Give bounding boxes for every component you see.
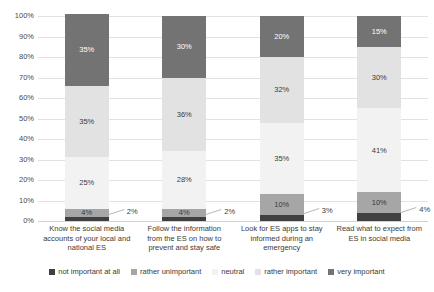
segment-value-label: 35% bbox=[79, 46, 94, 54]
bar-category-2[interactable]: 30%36%28%4%2% bbox=[162, 16, 206, 221]
segment-value-label: 4% bbox=[81, 209, 92, 217]
callout-value-label: 2% bbox=[224, 208, 235, 216]
segment-value-label: 35% bbox=[79, 118, 94, 126]
category-label-line: emergency bbox=[233, 243, 331, 253]
bar-segment[interactable]: 35% bbox=[260, 123, 304, 195]
legend-item[interactable]: neutral bbox=[212, 268, 244, 276]
callout-leader-line bbox=[206, 209, 222, 215]
legend-label: neutral bbox=[221, 268, 244, 276]
bar-segment[interactable]: 35% bbox=[65, 86, 109, 158]
x-axis-category-label: Look for ES apps to stayinformed during … bbox=[233, 224, 331, 253]
legend-label: very important bbox=[337, 268, 385, 276]
segment-value-label: 28% bbox=[177, 176, 192, 184]
bar-segment[interactable]: 4% bbox=[65, 209, 109, 217]
segment-value-label: 35% bbox=[274, 155, 289, 163]
y-axis-tick-label: 70% bbox=[0, 74, 34, 82]
segment-value-label: 25% bbox=[79, 179, 94, 187]
segment-value-label: 20% bbox=[274, 33, 289, 41]
segment-value-label: 10% bbox=[372, 199, 387, 207]
chart-legend: not important at allrather unimportantne… bbox=[0, 268, 434, 276]
segment-value-label: 30% bbox=[177, 43, 192, 51]
bar-segment[interactable]: 10% bbox=[260, 194, 304, 215]
bar-segment[interactable]: 28% bbox=[162, 151, 206, 208]
callout-value-label: 4% bbox=[419, 206, 430, 214]
legend-label: not important at all bbox=[58, 268, 120, 276]
y-axis-tick-label: 0% bbox=[0, 217, 34, 225]
y-axis-tick-label: 80% bbox=[0, 53, 34, 61]
bar-segment[interactable]: 3% bbox=[260, 215, 304, 221]
bar-segment[interactable]: 36% bbox=[162, 78, 206, 152]
segment-value-label: 10% bbox=[274, 201, 289, 209]
callout-leader-line bbox=[401, 207, 417, 213]
segment-value-label: 41% bbox=[372, 147, 387, 155]
y-axis-tick-label: 20% bbox=[0, 176, 34, 184]
category-label-line: Follow the information bbox=[136, 224, 234, 234]
category-label-line: prevent and stay safe bbox=[136, 243, 234, 253]
plot-area: 35%35%25%4%2%2%30%36%28%4%2%2%20%32%35%1… bbox=[38, 16, 428, 221]
legend-swatch-icon bbox=[49, 269, 55, 275]
bar-segment[interactable]: 41% bbox=[357, 108, 401, 192]
bar-segment[interactable]: 10% bbox=[357, 192, 401, 213]
x-axis-category-label: Read what to expect fromES in social med… bbox=[331, 224, 429, 243]
category-label-line: ES in social media bbox=[331, 234, 429, 244]
legend-label: rather important bbox=[264, 268, 317, 276]
y-axis-tick-label: 40% bbox=[0, 135, 34, 143]
x-axis-category-label: Follow the informationfrom the ES on how… bbox=[136, 224, 234, 253]
bar-segment[interactable]: 25% bbox=[65, 157, 109, 208]
category-label-line: Know the social media bbox=[38, 224, 136, 234]
legend-swatch-icon bbox=[328, 269, 334, 275]
y-axis-tick-label: 50% bbox=[0, 115, 34, 123]
segment-value-label: 32% bbox=[274, 86, 289, 94]
category-label-line: from the ES on how to bbox=[136, 234, 234, 244]
y-axis-tick-label: 60% bbox=[0, 94, 34, 102]
category-label-line: accounts of your local and bbox=[38, 234, 136, 244]
y-axis-tick-label: 90% bbox=[0, 33, 34, 41]
bar-segment[interactable]: 32% bbox=[260, 57, 304, 123]
bar-segment[interactable]: 30% bbox=[357, 47, 401, 109]
callout-value-label: 2% bbox=[127, 208, 138, 216]
category-label-line: Read what to expect from bbox=[331, 224, 429, 234]
bar-segment[interactable]: 2% bbox=[162, 217, 206, 221]
legend-label: rather unimportant bbox=[140, 268, 201, 276]
category-label-line: national ES bbox=[38, 243, 136, 253]
bar-category-1[interactable]: 35%35%25%4%2% bbox=[65, 14, 109, 221]
segment-value-label: 15% bbox=[372, 28, 387, 36]
legend-item[interactable]: rather important bbox=[255, 268, 317, 276]
bar-segment[interactable]: 20% bbox=[260, 16, 304, 57]
legend-swatch-icon bbox=[212, 269, 218, 275]
legend-item[interactable]: rather unimportant bbox=[131, 268, 201, 276]
bar-segment[interactable]: 35% bbox=[65, 14, 109, 86]
callout-value-label: 3% bbox=[322, 207, 333, 215]
bar-segment[interactable]: 4% bbox=[162, 209, 206, 217]
stacked-bar-chart: 100%90%80%70%60%50%40%30%20%10%0% 35%35%… bbox=[0, 0, 434, 292]
category-label-line: informed during an bbox=[233, 234, 331, 244]
callout-leader-line bbox=[109, 209, 125, 215]
bar-segment[interactable]: 30% bbox=[162, 16, 206, 78]
y-axis: 100%90%80%70%60%50%40%30%20%10%0% bbox=[0, 16, 34, 221]
callout-leader-line bbox=[304, 208, 320, 214]
gridline-0 bbox=[38, 221, 428, 222]
bar-segment[interactable]: 4% bbox=[357, 213, 401, 221]
legend-swatch-icon bbox=[255, 269, 261, 275]
y-axis-tick-label: 30% bbox=[0, 156, 34, 164]
bar-segment[interactable]: 2% bbox=[65, 217, 109, 221]
x-axis-category-label: Know the social mediaaccounts of your lo… bbox=[38, 224, 136, 253]
bar-category-3[interactable]: 20%32%35%10%3% bbox=[260, 16, 304, 221]
legend-item[interactable]: not important at all bbox=[49, 268, 120, 276]
bar-segment[interactable]: 15% bbox=[357, 16, 401, 47]
y-axis-tick-label: 100% bbox=[0, 12, 34, 20]
segment-value-label: 4% bbox=[179, 209, 190, 217]
legend-swatch-icon bbox=[131, 269, 137, 275]
category-label-line: Look for ES apps to stay bbox=[233, 224, 331, 234]
legend-item[interactable]: very important bbox=[328, 268, 385, 276]
segment-value-label: 36% bbox=[177, 111, 192, 119]
segment-value-label: 30% bbox=[372, 74, 387, 82]
y-axis-tick-label: 10% bbox=[0, 197, 34, 205]
bar-category-4[interactable]: 15%30%41%10%4% bbox=[357, 16, 401, 221]
x-axis-category-labels: Know the social mediaaccounts of your lo… bbox=[38, 224, 428, 264]
